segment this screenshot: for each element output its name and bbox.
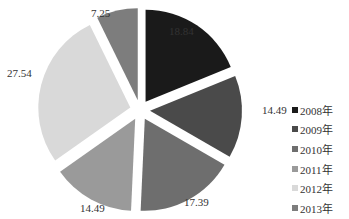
legend-item-2013: 2013年: [292, 198, 333, 218]
legend-label: 2013年: [300, 200, 333, 216]
legend-label: 2011年: [300, 161, 333, 177]
legend-swatch: [292, 166, 298, 172]
legend-item-2010: 2010年: [292, 139, 333, 159]
slice-value-label: 27.54: [7, 67, 32, 79]
legend-label: 2012年: [300, 180, 333, 196]
legend-swatch: [292, 205, 298, 211]
slice-value-label: 17.39: [184, 196, 209, 208]
legend-item-2012: 2012年: [292, 178, 333, 198]
legend: 2008年 2009年 2010年 2011年 2012年 2013年: [292, 100, 333, 218]
legend-swatch: [292, 107, 298, 113]
legend-label: 2008年: [300, 102, 333, 118]
legend-item-2008: 2008年: [292, 100, 333, 120]
legend-swatch: [292, 126, 298, 132]
slice-value-label: 7.25: [91, 7, 111, 19]
legend-item-2011: 2011年: [292, 159, 333, 179]
slice-value-label: 14.49: [80, 202, 105, 214]
legend-swatch: [292, 146, 298, 152]
slice-value-label: 14.49: [262, 104, 287, 116]
legend-label: 2010年: [300, 141, 333, 157]
legend-item-2009: 2009年: [292, 120, 333, 140]
slice-value-label: 18.84: [169, 25, 194, 37]
legend-label: 2009年: [300, 121, 333, 137]
legend-swatch: [292, 185, 298, 191]
